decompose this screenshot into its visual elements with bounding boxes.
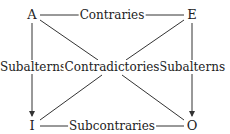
node-i: I — [28, 119, 35, 133]
contraries-label: Contraries — [79, 8, 146, 22]
left-subalterns-label: Subalterns — [0, 60, 67, 74]
diagonal-e-i-bottom — [40, 75, 102, 120]
subcontraries-label: Subcontraries — [68, 119, 156, 133]
contradictories-label: Contradictories — [64, 60, 161, 74]
diagonal-a-o-top — [40, 20, 98, 60]
node-e: E — [186, 8, 198, 22]
diagonal-a-o-bottom — [122, 75, 184, 120]
right-subalterns-label: Subalterns — [158, 60, 226, 74]
diagonal-e-i-top — [126, 20, 184, 60]
node-a: A — [26, 8, 37, 22]
node-o: O — [186, 119, 199, 133]
